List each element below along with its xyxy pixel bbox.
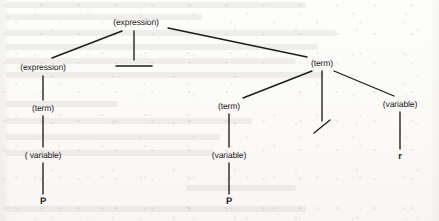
nonterminal-node-n9: (variable): [212, 151, 246, 160]
nonterminal-node-n4: (term): [32, 104, 54, 113]
nonterminal-node-n0: (expression): [113, 18, 158, 27]
terminal-node-n10: r: [398, 151, 402, 160]
terminal-node-n12: P: [226, 196, 232, 205]
tree-edge-n0-n3: [168, 28, 307, 57]
nonterminal-node-n7: (variable): [383, 100, 417, 109]
tree-edge-n3-n7: [334, 71, 394, 96]
terminal-node-n11: P: [40, 196, 46, 205]
nonterminal-node-n5: (term): [218, 102, 240, 111]
tree-edge-n3-n5: [243, 71, 312, 98]
nonterminal-node-n8: ( variable): [25, 151, 62, 160]
nonterminal-node-n3: (term): [311, 59, 333, 68]
figure-canvas: (expression)(expression)(term)(term)(ter…: [0, 0, 439, 221]
nonterminal-node-n1: (expression): [20, 63, 65, 72]
tree-edge-n0-n1: [52, 31, 122, 58]
slash-terminal-glyph: [314, 120, 330, 133]
